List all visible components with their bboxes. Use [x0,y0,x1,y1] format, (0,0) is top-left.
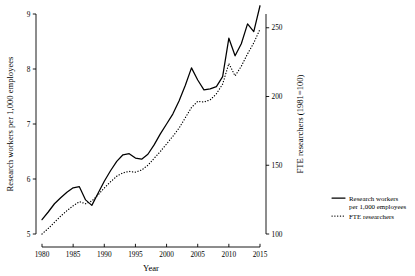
y-axis-right-title: FTE researchers (1981=100) [295,74,305,173]
y-axis-left-title: Research workers per 1,000 employees [5,56,15,191]
chart-legend: Research workersper 1,000 employeesFTE r… [332,195,407,220]
y-axis-left-tick-label: 9 [27,10,31,19]
x-axis-tick-label: 1985 [66,250,81,259]
y-axis-right-tick-label: 150 [272,161,283,170]
y-axis-left-tick-label: 5 [27,230,31,239]
series-line-2 [42,29,260,234]
chart-canvas: 56789Research workers per 1,000 employee… [0,0,415,276]
y-axis-left-tick-label: 8 [27,65,31,74]
x-axis-tick-label: 1995 [128,250,143,259]
x-axis-tick-label: 1990 [97,250,112,259]
y-axis-right-tick-label: 100 [272,230,283,239]
x-axis-tick-label: 2015 [253,250,268,259]
x-axis-tick-label: 2005 [190,250,205,259]
chart-figure: 56789Research workers per 1,000 employee… [0,0,415,276]
y-axis-right-tick-label: 200 [272,92,283,101]
series-line-1 [42,6,260,220]
y-axis-left-tick-label: 6 [27,175,31,184]
legend-label: FTE researchers [349,213,394,220]
y-axis-right-tick-label: 250 [272,23,283,32]
x-axis-tick-label: 2000 [159,250,174,259]
x-axis-tick-label: 2010 [222,250,237,259]
legend-label-continued: per 1,000 employees [349,203,407,210]
x-axis-title: Year [143,263,159,273]
legend-label: Research workers [349,195,398,202]
x-axis-tick-label: 1980 [35,250,50,259]
y-axis-left-tick-label: 7 [27,120,31,129]
